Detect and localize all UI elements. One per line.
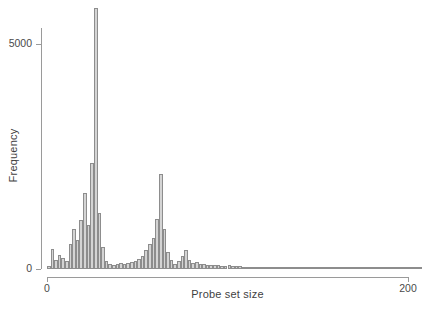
y-axis-tick [36,44,41,45]
y-axis-tick-label: 5000 [0,37,32,49]
plot-area [47,8,408,269]
y-axis-line [41,28,42,269]
x-axis-line [47,277,408,278]
y-axis-tick-label: 0 [0,262,32,274]
histogram-bar [419,267,423,269]
y-axis-tick [36,269,41,270]
histogram-figure: Frequency 05000 0200 Probe set size [0,0,446,311]
x-axis-label: Probe set size [47,288,408,300]
